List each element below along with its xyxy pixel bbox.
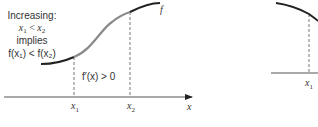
x-axis-label: x [186,101,192,112]
caption-implies: implies [16,35,47,46]
curve-segment-after-x2 [130,3,160,12]
right-panel: x1 [271,3,318,91]
caption-function-inequality: f(x₁) < f(x₂) [8,48,56,59]
tick-label-x1: x1 [70,100,79,114]
derivative-label: f′(x) > 0 [82,71,116,82]
curve-segment-increasing [74,12,130,57]
right-curve [276,3,318,21]
caption-increasing: Increasing: [8,10,57,21]
increasing-function-diagram: x f x1 x2 f′(x) > 0 Increasing: x1 < x2 … [0,0,318,127]
left-panel: x f x1 x2 f′(x) > 0 Increasing: x1 < x2 … [4,3,192,114]
caption-inequality: x1 < x2 [18,22,46,35]
tick-label-x2: x2 [126,100,135,114]
right-tick-label-x1: x1 [304,77,313,91]
function-label-f: f [160,4,164,15]
